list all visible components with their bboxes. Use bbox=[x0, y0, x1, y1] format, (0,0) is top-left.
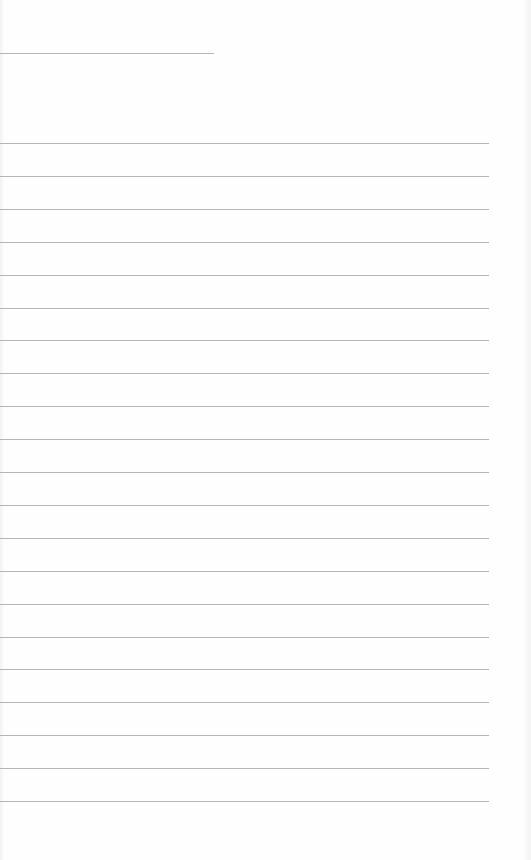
ruled-line bbox=[0, 472, 489, 473]
ruled-paper-page bbox=[0, 0, 531, 860]
ruled-line bbox=[0, 637, 489, 638]
ruled-line bbox=[0, 571, 489, 572]
ruled-line bbox=[0, 275, 489, 276]
ruled-line bbox=[0, 801, 489, 802]
ruled-line bbox=[0, 143, 489, 144]
ruled-line bbox=[0, 439, 489, 440]
ruled-line bbox=[0, 669, 489, 670]
ruled-line bbox=[0, 768, 489, 769]
ruled-line bbox=[0, 538, 489, 539]
header-rule bbox=[0, 53, 214, 54]
page-left-edge-shadow bbox=[0, 0, 4, 860]
ruled-line bbox=[0, 604, 489, 605]
ruled-line bbox=[0, 308, 489, 309]
ruled-line bbox=[0, 209, 489, 210]
ruled-line bbox=[0, 373, 489, 374]
page-right-edge-shadow bbox=[523, 0, 531, 860]
ruled-line bbox=[0, 505, 489, 506]
ruled-line bbox=[0, 406, 489, 407]
ruled-line bbox=[0, 702, 489, 703]
ruled-line bbox=[0, 242, 489, 243]
ruled-line bbox=[0, 340, 489, 341]
ruled-line bbox=[0, 176, 489, 177]
ruled-line bbox=[0, 735, 489, 736]
